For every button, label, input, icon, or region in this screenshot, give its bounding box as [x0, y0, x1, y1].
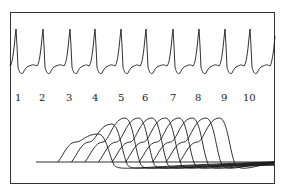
overlay-waveform	[153, 118, 275, 168]
overlay-waveform	[126, 118, 275, 168]
beat-label: 6	[142, 92, 148, 103]
beat-label: 7	[170, 92, 176, 103]
beat-label: 3	[66, 92, 72, 103]
overlay-waveform	[58, 134, 274, 168]
beat-label: 5	[118, 92, 124, 103]
overlay-waveform	[99, 118, 275, 168]
beat-label: 1	[15, 92, 21, 103]
waveform-overlay	[36, 118, 274, 168]
beat-label: 10	[243, 92, 256, 103]
beat-label: 2	[39, 92, 45, 103]
beat-label: 4	[92, 92, 98, 103]
ecg-path	[10, 29, 275, 74]
beat-labels: 1 2 3 4 5 6 7 8 9 10	[15, 92, 256, 103]
beat-label: 9	[221, 92, 227, 103]
ecg-trace	[10, 29, 275, 74]
figure: 1 2 3 4 5 6 7 8 9 10	[0, 0, 283, 194]
beat-label: 8	[195, 92, 201, 103]
